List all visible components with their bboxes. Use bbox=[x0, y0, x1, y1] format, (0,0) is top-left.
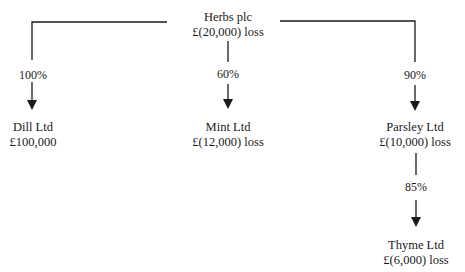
holding-thyme: 85% bbox=[404, 180, 428, 194]
node-result: £(6,000) loss bbox=[383, 253, 448, 268]
connector-herbs-dill bbox=[32, 22, 167, 60]
node-name: Thyme Ltd bbox=[383, 238, 448, 253]
node-result: £100,000 bbox=[10, 135, 57, 150]
node-thyme-ltd: Thyme Ltd £(6,000) loss bbox=[383, 238, 448, 268]
holding-mint: 60% bbox=[216, 67, 240, 81]
node-name: Dill Ltd bbox=[10, 120, 57, 135]
connector-herbs-parsley bbox=[280, 21, 415, 62]
node-mint-ltd: Mint Ltd £(12,000) loss bbox=[192, 120, 264, 150]
node-parsley-ltd: Parsley Ltd £(10,000) loss bbox=[379, 120, 451, 150]
node-name: Parsley Ltd bbox=[379, 120, 451, 135]
node-result: £(20,000) loss bbox=[192, 25, 264, 40]
group-structure-diagram: Herbs plc £(20,000) loss 100% 60% 90% 85… bbox=[0, 0, 465, 272]
node-result: £(12,000) loss bbox=[192, 135, 264, 150]
node-name: Mint Ltd bbox=[192, 120, 264, 135]
node-result: £(10,000) loss bbox=[379, 135, 451, 150]
holding-parsley: 90% bbox=[403, 68, 427, 82]
node-name: Herbs plc bbox=[192, 10, 264, 25]
node-herbs-plc: Herbs plc £(20,000) loss bbox=[192, 10, 264, 40]
holding-dill: 100% bbox=[18, 68, 48, 82]
node-dill-ltd: Dill Ltd £100,000 bbox=[10, 120, 57, 150]
